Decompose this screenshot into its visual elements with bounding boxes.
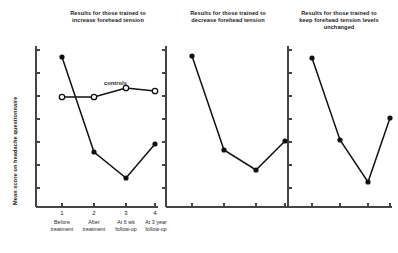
panel-1-y-ticks: [36, 50, 40, 188]
data-point: [282, 138, 287, 143]
data-point: [253, 167, 258, 172]
data-point: [221, 147, 226, 152]
data-point: [59, 94, 64, 99]
panel-1-x-tick-2: 2: [87, 210, 101, 216]
figure-canvas: Mean score on headache questionnaire Res…: [0, 0, 398, 253]
data-point: [91, 94, 96, 99]
panel-1-treated-series: [59, 54, 157, 180]
panel-1-x-tick-3: 3: [119, 210, 133, 216]
panel-1-x-tick-1: 1: [55, 210, 69, 216]
panel-3-treated-series: [309, 55, 392, 184]
data-point: [337, 137, 342, 142]
x-caption-4-line2: follow-up: [136, 226, 176, 233]
data-point: [189, 53, 194, 58]
data-point: [152, 88, 157, 93]
data-point: [123, 85, 128, 90]
data-point: [123, 175, 128, 180]
x-caption-4-line1: At 3 year: [136, 219, 176, 226]
panel-1-x-tick-4: 4: [148, 210, 162, 216]
panel-2-x-ticks: [192, 203, 285, 207]
data-point: [365, 179, 370, 184]
data-point: [152, 141, 157, 146]
panel-3-x-ticks: [312, 203, 390, 207]
panel-1-x-ticks: [62, 203, 155, 207]
panel-3-y-ticks: [288, 50, 292, 188]
panel-2-treated-series: [189, 53, 287, 172]
panel-2-y-ticks: [162, 50, 166, 188]
data-point: [387, 115, 392, 120]
data-point: [91, 149, 96, 154]
data-point: [59, 54, 64, 59]
data-point: [309, 55, 314, 60]
